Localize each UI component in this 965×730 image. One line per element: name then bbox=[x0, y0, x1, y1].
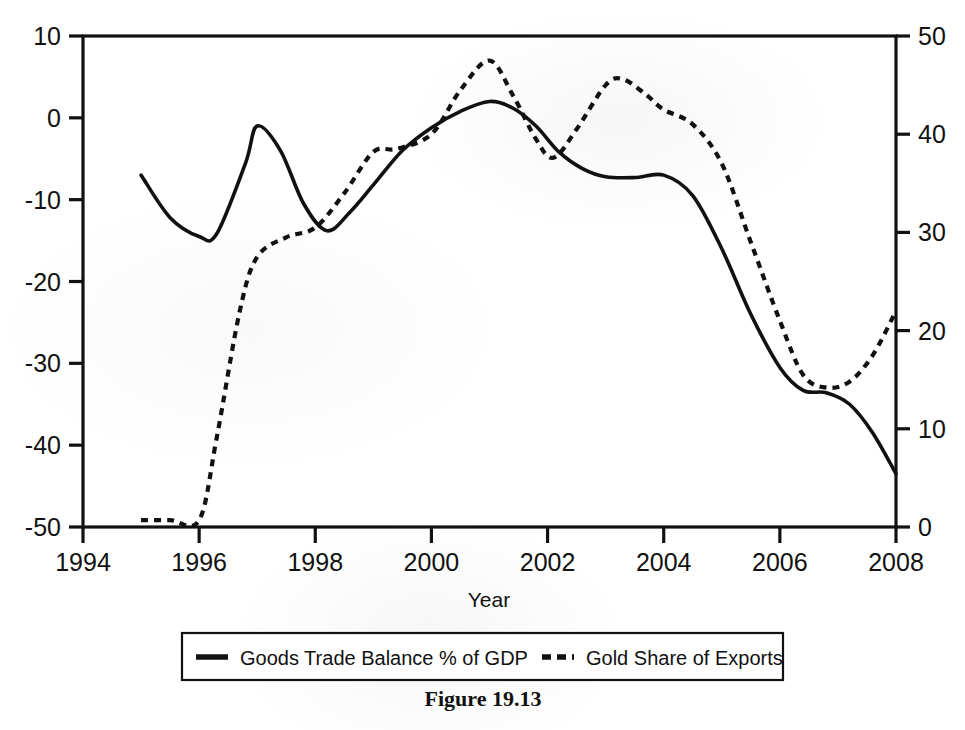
legend: Goods Trade Balance % of GDP Gold Share … bbox=[182, 633, 783, 680]
y-axis-right-tick-label: 20 bbox=[918, 317, 946, 345]
y-axis-left-tick-label: -20 bbox=[25, 268, 61, 296]
y-axis-right-tick-label: 10 bbox=[918, 415, 946, 443]
x-axis-tick-label: 2000 bbox=[404, 548, 460, 576]
y-axis-left: 100-10-20-30-40-50 bbox=[25, 22, 83, 541]
y-axis-right: 50403020100 bbox=[896, 22, 946, 541]
legend-label-gold-share: Gold Share of Exports bbox=[586, 647, 783, 669]
figure-container: 100-10-20-30-40-50 50403020100 199419961… bbox=[0, 0, 965, 730]
plot-frame bbox=[83, 36, 896, 527]
chart-canvas: 100-10-20-30-40-50 50403020100 199419961… bbox=[0, 0, 965, 730]
y-axis-left-tick-label: -40 bbox=[25, 431, 61, 459]
series-layer bbox=[141, 61, 896, 527]
y-axis-left-tick-label: -30 bbox=[25, 349, 61, 377]
x-axis-title: Year bbox=[468, 588, 510, 611]
x-axis-tick-label: 1998 bbox=[287, 548, 343, 576]
x-axis-tick-label: 2004 bbox=[636, 548, 692, 576]
y-axis-left-tick-label: -50 bbox=[25, 513, 61, 541]
y-axis-left-tick-label: 10 bbox=[33, 22, 61, 50]
x-axis: 19941996199820002002200420062008 bbox=[55, 527, 924, 576]
x-axis-tick-label: 2006 bbox=[752, 548, 808, 576]
y-axis-right-tick-label: 0 bbox=[918, 513, 932, 541]
y-axis-left-tick-label: -10 bbox=[25, 186, 61, 214]
x-axis-tick-label: 2002 bbox=[520, 548, 576, 576]
x-axis-tick-label: 1994 bbox=[55, 548, 111, 576]
y-axis-right-tick-label: 50 bbox=[918, 22, 946, 50]
x-axis-tick-label: 1996 bbox=[171, 548, 227, 576]
x-axis-tick-label: 2008 bbox=[868, 548, 924, 576]
figure-caption: Figure 19.13 bbox=[425, 686, 542, 711]
y-axis-left-tick-label: 0 bbox=[47, 104, 61, 132]
y-axis-right-tick-label: 40 bbox=[918, 120, 946, 148]
y-axis-right-tick-label: 30 bbox=[918, 218, 946, 246]
series-line-solid bbox=[141, 101, 896, 473]
legend-label-goods-trade-balance: Goods Trade Balance % of GDP bbox=[240, 647, 528, 669]
